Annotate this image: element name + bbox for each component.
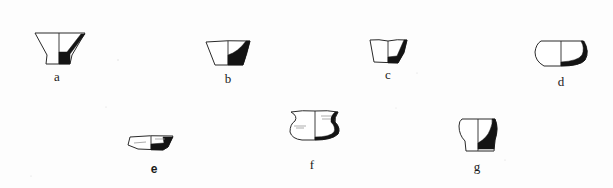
vessel-c-label: c	[385, 68, 391, 81]
pottery-figure: a b c d e f g	[0, 0, 613, 188]
scan-speckles	[30, 59, 505, 176]
vessel-a	[35, 33, 85, 64]
vessel-e-label: e	[151, 163, 158, 175]
vessel-a-label: a	[54, 70, 60, 83]
vessel-d	[535, 41, 587, 66]
vessel-b-label: b	[225, 72, 232, 85]
vessel-g-label: g	[474, 160, 481, 173]
vessel-f-label: f	[310, 158, 314, 171]
vessel-d-label: d	[558, 75, 565, 88]
pottery-profiles	[0, 0, 613, 188]
vessel-e	[128, 136, 173, 150]
vessel-c	[370, 40, 407, 63]
vessel-f	[290, 111, 339, 140]
vessel-b	[206, 41, 250, 65]
vessel-g	[459, 119, 497, 151]
